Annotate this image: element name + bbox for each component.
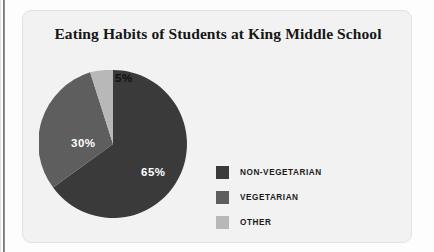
page-edge-line [0,0,1,252]
legend-label-vegetarian: VEGETARIAN [240,193,299,202]
page-margin-rule [3,0,5,252]
chart-card: Eating Habits of Students at King Middle… [22,10,412,243]
pie-chart [39,70,187,218]
chart-legend: NON-VEGETARIAN VEGETARIAN OTHER [216,161,396,236]
pie-value-label-other: 5% [115,72,133,84]
pie-value-label-non-vegetarian: 65% [141,166,166,178]
chart-title: Eating Habits of Students at King Middle… [23,25,413,43]
legend-swatch-other [216,216,229,229]
pie-value-label-vegetarian: 30% [71,137,96,149]
legend-swatch-non-vegetarian [216,166,229,179]
legend-item-vegetarian: VEGETARIAN [216,186,396,208]
page-canvas: Eating Habits a pie chart that to solve,… [0,0,434,252]
legend-item-non-vegetarian: NON-VEGETARIAN [216,161,396,183]
pie-svg [39,70,187,218]
legend-label-non-vegetarian: NON-VEGETARIAN [240,168,322,177]
legend-item-other: OTHER [216,211,396,233]
legend-label-other: OTHER [240,218,271,227]
legend-swatch-vegetarian [216,191,229,204]
